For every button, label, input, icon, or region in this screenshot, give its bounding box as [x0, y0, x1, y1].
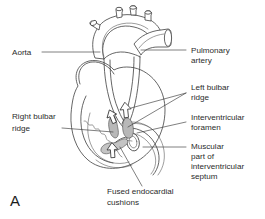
- label-left-bulbar-ridge-line-2: ridge: [191, 93, 209, 102]
- label-aorta-line-1: Aorta: [12, 48, 32, 57]
- heart-septation-figure: Aorta Pulmonary artery Left bulbar ridge…: [0, 0, 265, 219]
- label-interventricular-foramen: Interventricular foramen: [191, 113, 245, 132]
- anatomical-illustration: Aorta Pulmonary artery Left bulbar ridge…: [0, 0, 265, 219]
- label-fused-cushions-line-1: Fused endocardial: [107, 187, 174, 196]
- label-pulmonary-artery: Pulmonary artery: [191, 46, 231, 65]
- label-right-bulbar-ridge-line-1: Right bulbar: [12, 112, 56, 121]
- pulmonary-artery-trunk: [134, 29, 172, 55]
- label-muscular-septum-line-1: Muscular: [191, 142, 224, 151]
- label-right-bulbar-ridge-line-2: ridge: [12, 124, 30, 133]
- label-right-bulbar-ridge: Right bulbar ridge: [12, 112, 56, 133]
- branch-vessel-3-opening: [145, 11, 151, 14]
- label-pulmonary-artery-line-1: Pulmonary: [191, 46, 231, 55]
- label-interventricular-foramen-line-2: foramen: [191, 123, 221, 132]
- label-left-bulbar-ridge: Left bulbar ridge: [191, 83, 230, 102]
- pulmonary-trunk-opening: [164, 30, 171, 47]
- branch-vessel-1-opening: [116, 7, 122, 10]
- conus-arch-top: [104, 52, 140, 59]
- label-muscular-septum-line-2: part of: [191, 152, 215, 161]
- panel-letter: A: [10, 192, 20, 209]
- label-muscular-septum-line-3: interventricular: [191, 162, 244, 171]
- left-arch-stub: [89, 19, 100, 30]
- label-aorta: Aorta: [12, 48, 32, 57]
- label-pulmonary-artery-line-2: artery: [191, 56, 213, 65]
- label-muscular-septum-line-4: septum: [191, 172, 218, 181]
- label-fused-endocardial-cushions: Fused endocardial cushions: [107, 187, 174, 207]
- branch-vessel-2-opening: [130, 6, 136, 9]
- label-interventricular-foramen-line-1: Interventricular: [191, 113, 245, 122]
- label-muscular-part-of-interventricular-septum: Muscular part of interventricular septum: [191, 142, 244, 181]
- label-fused-cushions-line-2: cushions: [107, 198, 139, 207]
- label-left-bulbar-ridge-line-1: Left bulbar: [191, 83, 230, 92]
